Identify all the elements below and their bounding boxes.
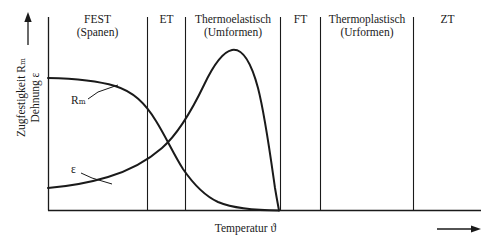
curve-elongation (48, 50, 279, 211)
zone-label-ft-line1: FT (294, 13, 307, 25)
zone-label-fest-line2: (Spanen) (48, 26, 147, 39)
zone-label-et-line1: ET (159, 13, 173, 25)
zone-label-ft: FT (281, 13, 320, 26)
zone-label-thermoelastisch-line1: Thermoelastisch (195, 13, 271, 25)
zone-divider-lines (148, 17, 414, 210)
zone-label-zt-line1: ZT (440, 13, 454, 25)
zone-label-fest: FEST (Spanen) (48, 13, 147, 39)
zone-label-thermoelastisch: Thermoelastisch (Umformen) (186, 13, 280, 39)
zone-label-zt: ZT (414, 13, 481, 26)
zone-label-et: ET (148, 13, 185, 26)
zone-label-fest-line1: FEST (84, 13, 111, 25)
x-axis-title-text: Temperatur ϑ (215, 222, 276, 234)
curve-label-elongation: ε (71, 163, 76, 175)
zone-label-thermoplastisch: Thermoplastisch (Urformen) (321, 13, 413, 39)
zone-label-thermoelastisch-line2: (Umformen) (186, 26, 280, 39)
zone-label-thermoplastisch-line1: Thermoplastisch (329, 13, 406, 25)
y-axis-title: Zugfestigkeit Rₘ Dehnung ε (15, 23, 42, 173)
y-axis-title-line1: Zugfestigkeit Rₘ (15, 58, 27, 137)
x-axis-title: Temperatur ϑ (0, 222, 491, 234)
curve-label-tensile-strength: Rₘ (71, 93, 86, 107)
curve-label-tensile-text: Rₘ (71, 94, 86, 106)
technical-diagram: FEST (Spanen) ET Thermoelastisch (Umform… (0, 0, 491, 247)
leader-line-tensile (88, 85, 118, 99)
y-axis-title-line2: Dehnung ε (28, 23, 42, 173)
zone-label-thermoplastisch-line2: (Urformen) (321, 26, 413, 39)
curve-label-elongation-text: ε (71, 163, 76, 175)
